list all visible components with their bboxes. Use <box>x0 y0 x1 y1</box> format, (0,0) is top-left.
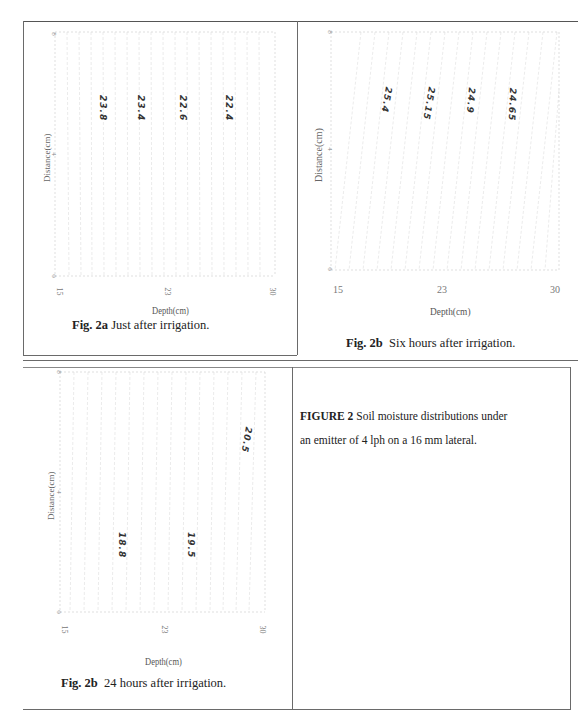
chart-fig-2a <box>55 30 277 278</box>
y-tick: 8 <box>50 32 58 36</box>
caption-fig-2c: Fig. 2b 24 hours after irrigation. <box>61 676 226 691</box>
y-tick: 8 <box>55 370 63 374</box>
caption-label: Fig. 2b <box>346 336 383 350</box>
caption-fig-2a: Fig. 2a Just after irrigation. <box>72 318 209 333</box>
caption-text: Just after irrigation. <box>108 318 209 332</box>
contour-plot-2a <box>55 30 277 278</box>
top-divider <box>297 21 298 355</box>
caption-label: Fig. 2a <box>72 318 108 332</box>
bottom-right-border <box>570 367 571 709</box>
x-tick: 15 <box>60 626 69 634</box>
y-tick: 0 <box>55 610 63 614</box>
x-tick: 23 <box>163 288 172 296</box>
caption-label: Fig. 2b <box>61 676 98 690</box>
contour-label: 18.8 <box>117 532 127 558</box>
contour-label: 24.65 <box>507 88 518 122</box>
x-tick: 30 <box>258 626 267 634</box>
y-axis-label: Distance(cm) <box>42 134 52 182</box>
x-tick: 15 <box>333 284 343 295</box>
y-axis-label: Distance(cm) <box>313 128 324 182</box>
chart-fig-2b <box>331 30 561 274</box>
caption-text: 24 hours after irrigation. <box>98 676 226 690</box>
contour-label: 23.8 <box>98 95 108 121</box>
x-tick: 30 <box>550 284 560 295</box>
bottom-row-top-border <box>23 367 571 368</box>
caption-fig-2b: Fig. 2b Six hours after irrigation. <box>346 336 515 351</box>
y-tick: 4 <box>326 147 334 151</box>
x-axis-label: Depth(cm) <box>430 305 471 317</box>
x-tick: 30 <box>268 288 277 296</box>
figure-title: FIGURE 2 Soil moisture distributions und… <box>300 404 550 452</box>
y-tick: 8 <box>326 30 334 34</box>
x-tick: 15 <box>55 288 64 296</box>
contour-label: 22.4 <box>224 95 234 121</box>
row-separator <box>23 360 578 361</box>
chart-fig-2c <box>60 370 270 615</box>
panel-2a-left-border <box>23 21 24 355</box>
caption-text: Six hours after irrigation. <box>383 336 516 350</box>
contour-label: 22.6 <box>178 95 188 121</box>
x-axis-label: Depth(cm) <box>145 656 182 667</box>
figure-title-text: Soil moisture distributions under <box>353 410 507 422</box>
y-tick: 0 <box>50 274 58 278</box>
bottom-divider <box>292 367 293 709</box>
x-axis-label: Depth(cm) <box>152 305 189 316</box>
bottom-border <box>23 709 571 710</box>
y-tick: 0 <box>326 267 334 271</box>
contour-plot-2b <box>331 30 561 274</box>
panel-2a-bottom-border <box>23 355 297 356</box>
x-tick: 23 <box>160 626 169 634</box>
top-border <box>23 21 578 22</box>
x-tick: 23 <box>437 284 447 295</box>
contour-plot-2c <box>60 370 270 615</box>
contour-label: 23.4 <box>136 95 146 121</box>
figure-title-text-line2: an emitter of 4 lph on a 16 mm lateral. <box>300 434 477 446</box>
figure-title-label: FIGURE 2 <box>300 410 353 422</box>
y-axis-label: Distance(cm) <box>46 472 56 520</box>
contour-label: 19.5 <box>186 532 196 558</box>
